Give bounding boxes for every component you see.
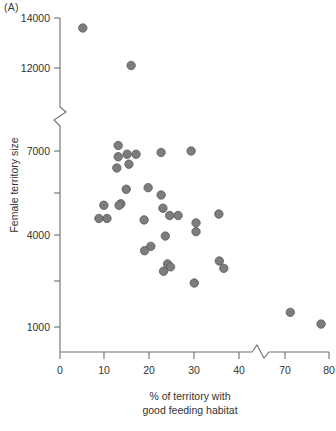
data-point <box>220 264 228 272</box>
y-tick-label-7000: 7000 <box>27 145 51 157</box>
data-point <box>157 191 165 199</box>
x-tick-label-40: 40 <box>233 364 245 376</box>
data-point <box>165 211 173 219</box>
x-axis-title-line-2: good feeding habitat <box>142 404 237 416</box>
y-tick-label-4000: 4000 <box>27 229 51 241</box>
x-tick-label-70: 70 <box>279 364 291 376</box>
data-point <box>114 141 122 149</box>
data-point <box>132 150 140 158</box>
data-point <box>140 247 148 255</box>
data-point <box>140 216 148 224</box>
y-axis-ticks <box>54 18 60 327</box>
data-point <box>125 160 133 168</box>
y-axis-tick-labels: 14000 12000 7000 4000 1000 <box>21 12 50 333</box>
data-point <box>192 219 200 227</box>
data-point <box>317 320 325 328</box>
panel-label: (A) <box>4 1 19 13</box>
x-tick-label-30: 30 <box>188 364 200 376</box>
data-point <box>95 214 103 222</box>
data-points-layer <box>79 24 326 328</box>
y-axis-title: Female territory size <box>8 137 20 232</box>
data-point <box>144 183 152 191</box>
x-tick-label-0: 0 <box>57 364 63 376</box>
data-point <box>127 61 135 69</box>
data-point <box>103 214 111 222</box>
x-axis-tick-labels: 0 10 20 30 40 70 80 <box>57 364 335 376</box>
data-point <box>174 211 182 219</box>
data-point <box>159 204 167 212</box>
data-point <box>192 227 200 235</box>
x-tick-label-80: 80 <box>323 364 335 376</box>
data-point <box>215 210 223 218</box>
data-point <box>123 150 131 158</box>
x-axis-ticks <box>60 352 329 359</box>
y-tick-label-1000: 1000 <box>27 321 51 333</box>
data-point <box>122 185 130 193</box>
data-point <box>157 148 165 156</box>
data-point <box>100 201 108 209</box>
data-point <box>187 147 195 155</box>
data-point <box>115 201 123 209</box>
data-point <box>159 267 167 275</box>
y-tick-label-12000: 12000 <box>21 62 50 74</box>
plot-canvas: 14000 12000 7000 4000 1000 0 10 20 30 40… <box>0 0 336 431</box>
data-point <box>114 153 122 161</box>
scatter-plot-figure: (A) 14000 12000 7000 4000 1000 <box>0 0 336 431</box>
data-point <box>79 24 87 32</box>
data-point <box>190 279 198 287</box>
data-point <box>286 308 294 316</box>
y-tick-label-14000: 14000 <box>21 12 50 24</box>
data-point <box>215 257 223 265</box>
x-tick-label-20: 20 <box>143 364 155 376</box>
x-axis-title-line-1: % of territory with <box>149 390 230 402</box>
x-tick-label-10: 10 <box>98 364 110 376</box>
data-point <box>113 164 121 172</box>
data-point <box>161 232 169 240</box>
